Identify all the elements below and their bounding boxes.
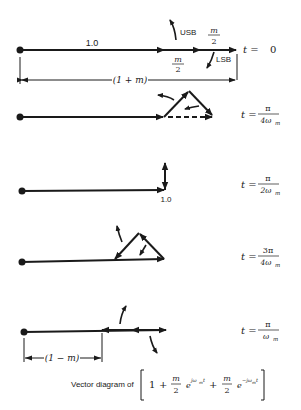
lsb-vector: [189, 91, 212, 115]
usb-rotation-arrow-icon: [158, 95, 174, 100]
expr-m-num-2: m: [223, 374, 231, 383]
time-label-den-sub: m: [275, 262, 280, 268]
left-bracket: [141, 370, 144, 400]
dimension-arrow-right-icon: [229, 78, 236, 83]
expr-one: 1: [149, 379, 155, 390]
right-bracket: [261, 370, 264, 400]
carrier-vector: [22, 190, 164, 191]
time-label-den: 4ω: [260, 116, 272, 125]
time-label-den: 4ω: [260, 258, 272, 267]
expr-m-den-1: 2: [173, 386, 178, 395]
time-label-num: π: [265, 320, 270, 329]
expr-exp1-t: t: [203, 377, 206, 383]
time-label-den: ω: [263, 332, 269, 341]
expr-plus-2: +: [209, 379, 217, 390]
usb-magnitude-den: 2: [175, 65, 180, 74]
expr-m-den-2: 2: [224, 386, 229, 395]
carrier-label: 1.0: [160, 195, 172, 204]
carrier-label: 1.0: [86, 38, 99, 48]
time-label-lhs: t =: [243, 44, 259, 55]
dimension-label: (1 + m): [113, 75, 148, 85]
expr-exp1-power: jω: [190, 377, 197, 384]
time-label-den: 2ω: [260, 186, 272, 195]
usb-label: USB: [180, 28, 196, 37]
carrier-vector: [22, 259, 164, 262]
dimension-arrow-right-icon: [94, 356, 101, 361]
time-label-num: π: [265, 174, 270, 183]
panel-t-pi: (1 − m) π ω m t =: [21, 306, 280, 363]
lsb-label: LSB: [216, 55, 231, 64]
expr-m-num-1: m: [172, 374, 180, 383]
expr-exp2-t: t: [256, 377, 259, 383]
time-label-lhs: t =: [241, 179, 257, 190]
time-label-value: 0: [270, 44, 276, 55]
dimension-arrow-left-icon: [21, 78, 28, 83]
time-label-num: 3π: [263, 246, 273, 255]
lsb-magnitude-num: m: [210, 26, 218, 35]
lsb-rotation-arrow-icon: [140, 245, 146, 255]
time-label-den-sub: m: [273, 336, 278, 342]
expr-exp2-power: −jω: [242, 377, 252, 384]
panel-t-pi-2: 1.0 π 2ω m t =: [19, 163, 281, 204]
panel-t-3pi-4: 3π 4ω m t =: [19, 226, 281, 268]
usb-rotation-arrow-icon: [117, 226, 122, 242]
vector-diagram-canvas: 1.0 m 2 m 2 USB LSB (1 + m) t = 0: [0, 0, 301, 410]
caption: Vector diagram of 1 + m 2 e jω m t + m 2…: [71, 370, 264, 400]
usb-vector: [140, 234, 164, 259]
dimension-arrow-left-icon: [25, 356, 32, 361]
time-label-den-sub: m: [275, 190, 280, 196]
usb-rotation-arrow-icon: [120, 306, 126, 324]
lsb-rotation-arrow-icon: [207, 52, 214, 68]
time-label-den-sub: m: [275, 120, 280, 126]
usb-vector: [164, 92, 188, 117]
lsb-rotation-arrow-icon: [185, 106, 199, 109]
expr-plus-1: +: [159, 379, 167, 390]
usb-magnitude-num: m: [174, 55, 182, 64]
time-label-lhs: t =: [241, 325, 257, 336]
lsb-vector: [115, 233, 139, 259]
time-label-lhs: t =: [241, 251, 257, 262]
panel-t-pi-4: π 4ω m t =: [17, 91, 281, 126]
lsb-rotation-arrow-icon: [150, 336, 157, 353]
panel-t0: 1.0 m 2 m 2 USB LSB (1 + m) t = 0: [17, 20, 277, 85]
caption-title: Vector diagram of: [71, 380, 134, 389]
dimension-label: (1 − m): [45, 353, 80, 363]
usb-rotation-arrow-icon: [170, 20, 176, 40]
time-label-lhs: t =: [241, 109, 257, 120]
time-label-num: π: [265, 104, 270, 113]
lsb-magnitude-den: 2: [211, 37, 216, 46]
